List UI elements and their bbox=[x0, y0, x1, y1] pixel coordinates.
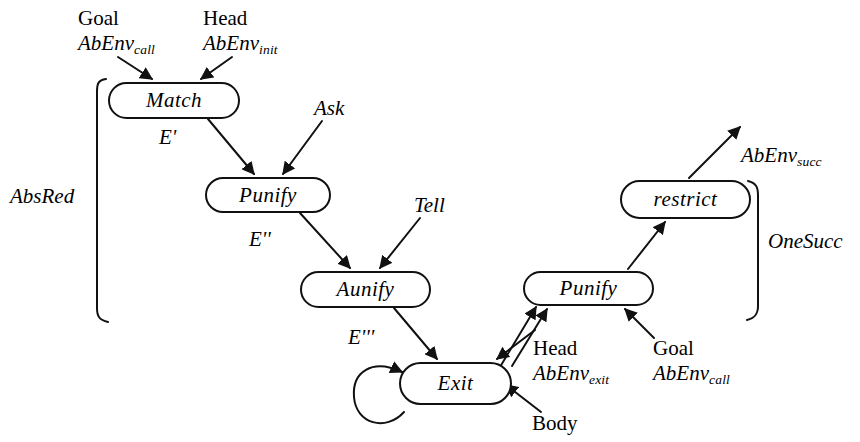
edge-goal-to-match bbox=[118, 57, 152, 79]
node-restrict[interactable]: restrict bbox=[620, 180, 751, 219]
edge-exit-self-loop bbox=[354, 366, 404, 423]
edge-label-e-double-prime: E'' bbox=[249, 228, 271, 252]
edge-punify2-to-restrict bbox=[628, 222, 665, 269]
bracket-label-absred: AbsRed bbox=[10, 185, 74, 209]
annotation-goal-init-variable: AbEnvcall bbox=[78, 31, 155, 56]
annotation-head-init-keyword: Head bbox=[203, 6, 278, 31]
edge-aunify-to-exit bbox=[394, 308, 437, 359]
annotation-goal-call-2: Goal AbEnvcall bbox=[653, 336, 730, 386]
annotation-abenv-succ: AbEnvsucc bbox=[741, 144, 822, 168]
bracket-absred bbox=[97, 79, 108, 322]
edge-label-tell: Tell bbox=[414, 194, 445, 218]
edge-tell-to-aunify bbox=[380, 218, 420, 268]
node-punify-right-label: Punify bbox=[560, 276, 618, 301]
edge-match-to-punify1 bbox=[208, 119, 254, 174]
edge-head-to-match bbox=[201, 57, 232, 79]
edge-label-body: Body bbox=[532, 412, 578, 436]
node-aunify[interactable]: Aunify bbox=[300, 271, 431, 308]
node-exit[interactable]: Exit bbox=[399, 362, 512, 405]
node-exit-label: Exit bbox=[438, 371, 474, 396]
edge-headexit-to-punify2 bbox=[497, 307, 536, 372]
annotation-head-exit: Head AbEnvexit bbox=[533, 336, 609, 386]
node-restrict-label: restrict bbox=[654, 187, 718, 212]
node-match-label: Match bbox=[146, 88, 202, 113]
annotation-goal-call-2-keyword: Goal bbox=[653, 336, 730, 361]
edge-ask-to-punify1 bbox=[283, 121, 322, 174]
annotation-head-init-variable: AbEnvinit bbox=[203, 31, 278, 56]
annotation-head-exit-keyword: Head bbox=[533, 336, 609, 361]
annotation-goal-init-keyword: Goal bbox=[78, 6, 155, 31]
annotation-head-exit-variable: AbEnvexit bbox=[533, 361, 609, 386]
edge-restrict-to-abenvsucc bbox=[689, 127, 740, 178]
annotation-goal-call-2-variable: AbEnvcall bbox=[653, 361, 730, 386]
node-punify-left[interactable]: Punify bbox=[205, 177, 331, 213]
node-match[interactable]: Match bbox=[108, 82, 240, 119]
node-punify-right[interactable]: Punify bbox=[523, 271, 654, 306]
edge-label-ask: Ask bbox=[314, 97, 344, 121]
edge-goalcall-to-punify2 bbox=[625, 309, 654, 338]
bracket-label-onesucc: OneSucc bbox=[768, 230, 843, 254]
annotation-head-init: Head AbEnvinit bbox=[203, 6, 278, 56]
edge-punify1-to-aunify bbox=[300, 213, 350, 268]
node-aunify-label: Aunify bbox=[337, 277, 395, 302]
edge-label-e-triple-prime: E''' bbox=[348, 326, 374, 350]
node-punify-left-label: Punify bbox=[239, 183, 297, 208]
annotation-goal-init: Goal AbEnvcall bbox=[78, 6, 155, 56]
edge-headexit-to-exit bbox=[497, 330, 535, 359]
edge-label-e-prime: E' bbox=[159, 126, 176, 150]
diagram-canvas: Match Punify Aunify Exit Punify restrict… bbox=[0, 0, 860, 442]
